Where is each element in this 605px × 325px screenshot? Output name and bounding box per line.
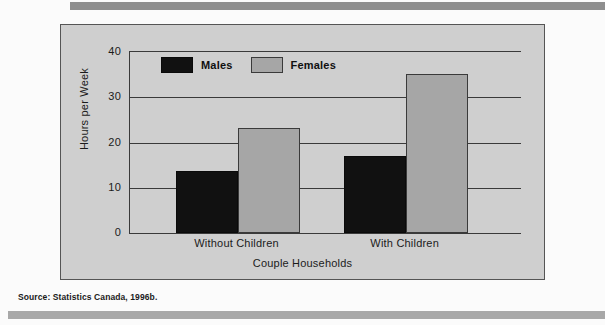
chart-legend: Males Females <box>161 57 336 73</box>
y-tick-30: 30 <box>108 90 121 102</box>
top-decorative-rule <box>70 2 605 10</box>
bar-with-children-males <box>344 156 406 233</box>
legend-swatch-males-icon <box>161 57 193 73</box>
legend-label-males: Males <box>201 59 233 71</box>
y-tick-40: 40 <box>108 45 121 57</box>
legend-entry-females: Females <box>251 57 336 73</box>
x-tick-without-children: Without Children <box>194 237 279 249</box>
x-tick-with-children: With Children <box>370 237 439 249</box>
x-axis-title: Couple Households <box>61 257 544 269</box>
legend-swatch-females-icon <box>251 57 283 73</box>
bar-with-children-females <box>406 74 468 233</box>
figure-panel: Hours per Week 40 30 20 10 0 Males Femal… <box>60 24 545 280</box>
plot-area <box>129 51 521 234</box>
legend-label-females: Females <box>291 59 336 71</box>
source-note: Source: Statistics Canada, 1996b. <box>18 292 157 302</box>
bottom-decorative-rule <box>8 311 605 319</box>
bar-without-children-females <box>238 128 300 233</box>
bar-without-children-males <box>176 171 238 233</box>
y-axis-tick-labels: 40 30 20 10 0 <box>61 51 127 232</box>
y-tick-0: 0 <box>115 226 121 238</box>
y-tick-10: 10 <box>108 181 121 193</box>
legend-entry-males: Males <box>161 57 233 73</box>
y-tick-20: 20 <box>108 136 121 148</box>
